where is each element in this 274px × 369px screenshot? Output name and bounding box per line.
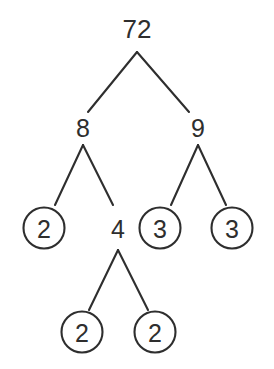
node-label: 8 bbox=[76, 114, 90, 142]
node-label: 4 bbox=[111, 215, 125, 243]
node-label: 2 bbox=[148, 319, 162, 347]
composite-node: 8 bbox=[76, 114, 90, 142]
prime-node: 2 bbox=[62, 312, 103, 353]
tree-canvas: 7289243322 bbox=[0, 0, 274, 369]
node-label: 2 bbox=[37, 215, 51, 243]
branch-line bbox=[198, 145, 226, 205]
branch-line bbox=[118, 250, 148, 310]
node-label: 3 bbox=[225, 215, 239, 243]
branch-line bbox=[171, 145, 198, 205]
prime-node: 3 bbox=[140, 208, 181, 249]
factor-tree-diagram: 7289243322 bbox=[0, 0, 274, 369]
node-label: 3 bbox=[153, 215, 167, 243]
node-label: 72 bbox=[123, 14, 152, 44]
branch-lines-group bbox=[55, 52, 226, 310]
node-label: 9 bbox=[191, 114, 205, 142]
branch-line bbox=[88, 52, 137, 112]
node-label: 2 bbox=[75, 319, 89, 347]
branch-line bbox=[83, 145, 113, 205]
tree-nodes-group: 7289243322 bbox=[24, 14, 253, 353]
composite-node: 72 bbox=[123, 14, 152, 44]
composite-node: 9 bbox=[191, 114, 205, 142]
prime-node: 2 bbox=[24, 208, 65, 249]
branch-line bbox=[137, 52, 189, 112]
composite-node: 4 bbox=[111, 215, 125, 243]
prime-node: 3 bbox=[212, 208, 253, 249]
branch-line bbox=[89, 250, 118, 310]
branch-line bbox=[55, 145, 83, 205]
prime-node: 2 bbox=[135, 312, 176, 353]
